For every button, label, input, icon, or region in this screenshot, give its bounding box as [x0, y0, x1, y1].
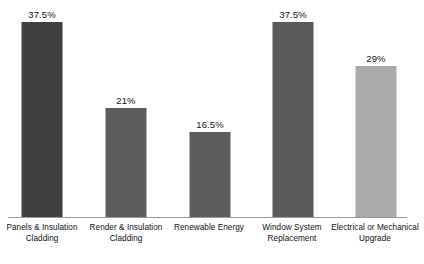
- bar-5: [356, 66, 397, 218]
- category-label-5-line2: Upgrade: [327, 233, 423, 244]
- bar-chart: 37.5% 21% 16.5% 37.5% 29% Panels & Insul…: [0, 0, 424, 264]
- bar-value-label-1: 37.5%: [28, 9, 55, 20]
- category-label-5: Electrical or Mechanical Upgrade: [327, 222, 423, 244]
- bar-value-label-5: 29%: [366, 53, 385, 64]
- bar-value-label-4: 37.5%: [279, 9, 306, 20]
- bar-group-3: 16.5%: [168, 0, 252, 218]
- category-label-2-line1: Render & Insulation: [78, 222, 174, 233]
- bar-value-label-2: 21%: [116, 95, 135, 106]
- category-label-5-line1: Electrical or Mechanical: [327, 222, 423, 233]
- category-label-3-line1: Renewable Energy: [161, 222, 257, 233]
- bar-2: [106, 108, 147, 218]
- bar-group-5: 29%: [334, 0, 418, 218]
- bar-group-1: 37.5%: [0, 0, 84, 218]
- bar-group-2: 21%: [84, 0, 168, 218]
- plot-area: 37.5% 21% 16.5% 37.5% 29%: [0, 0, 424, 218]
- x-axis-baseline: [8, 217, 407, 218]
- category-label-4: Window System Replacement: [244, 222, 340, 244]
- category-label-4-line1: Window System: [244, 222, 340, 233]
- bar-group-4: 37.5%: [251, 0, 335, 218]
- category-label-1-line1: Panels & Insulation: [0, 222, 90, 233]
- category-label-2: Render & Insulation Cladding: [78, 222, 174, 244]
- bar-4: [273, 22, 314, 218]
- category-label-3: Renewable Energy: [161, 222, 257, 233]
- bar-1: [22, 22, 63, 218]
- category-label-1: Panels & Insulation Cladding: [0, 222, 90, 244]
- category-label-1-line2: Cladding: [0, 233, 90, 244]
- category-label-4-line2: Replacement: [244, 233, 340, 244]
- category-axis-labels: Panels & Insulation Cladding Render & In…: [0, 222, 424, 264]
- bar-3: [190, 132, 231, 218]
- bar-value-label-3: 16.5%: [196, 119, 223, 130]
- category-label-2-line2: Cladding: [78, 233, 174, 244]
